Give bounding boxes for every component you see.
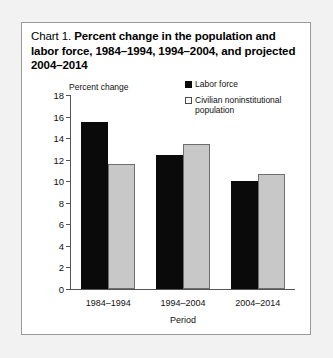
legend-label-labor-force: Labor force: [195, 79, 238, 89]
bar-labor-force: [81, 122, 108, 289]
plot-area: Percent change 024681012141618 1984–1994…: [71, 95, 295, 289]
y-tick-label: 4: [59, 240, 64, 251]
y-tick-label: 6: [59, 219, 64, 230]
chart-title: Chart 1. Percent change in the populatio…: [31, 29, 303, 73]
y-tick-mark: [66, 160, 70, 161]
chart-title-prefix: Chart 1.: [31, 30, 71, 42]
chart-title-main: Percent change in the population and lab…: [31, 30, 295, 71]
y-tick-label: 10: [53, 176, 64, 187]
y-tick-mark: [66, 95, 70, 96]
y-axis-title: Percent change: [69, 82, 129, 92]
legend-swatch-filled-square-icon: [185, 81, 192, 88]
y-tick-label: 2: [59, 262, 64, 273]
y-tick-mark: [66, 224, 70, 225]
x-axis-title: Period: [71, 315, 295, 325]
bar-group: 1984–1994: [71, 95, 146, 289]
x-tick-label: 1994–2004: [160, 298, 205, 308]
y-tick-mark: [66, 267, 70, 268]
bar-civilian-population: [108, 164, 135, 289]
y-tick-label: 18: [53, 90, 64, 101]
y-tick-mark: [66, 138, 70, 139]
x-tick-label: 1984–1994: [86, 298, 131, 308]
legend-item-labor-force: Labor force: [185, 79, 307, 89]
bar-civilian-population: [258, 174, 285, 289]
y-tick-label: 8: [59, 197, 64, 208]
y-tick-label: 12: [53, 154, 64, 165]
y-tick-mark: [66, 203, 70, 204]
bar-group: 1994–2004: [146, 95, 221, 289]
bar-labor-force: [231, 181, 258, 289]
y-tick-label: 16: [53, 111, 64, 122]
y-tick-mark: [66, 289, 70, 290]
bar-civilian-population: [183, 144, 210, 290]
y-tick-label: 0: [59, 284, 64, 295]
chart-card: Chart 1. Percent change in the populatio…: [21, 22, 311, 335]
bar-group: 2004–2014: [220, 95, 295, 289]
bar-labor-force: [156, 155, 183, 289]
page-background: Chart 1. Percent change in the populatio…: [0, 0, 333, 358]
y-tick-label: 14: [53, 133, 64, 144]
y-tick-mark: [66, 246, 70, 247]
x-tick-label: 2004–2014: [235, 298, 280, 308]
y-tick-mark: [66, 117, 70, 118]
x-axis-line: [70, 289, 295, 290]
y-tick-mark: [66, 181, 70, 182]
